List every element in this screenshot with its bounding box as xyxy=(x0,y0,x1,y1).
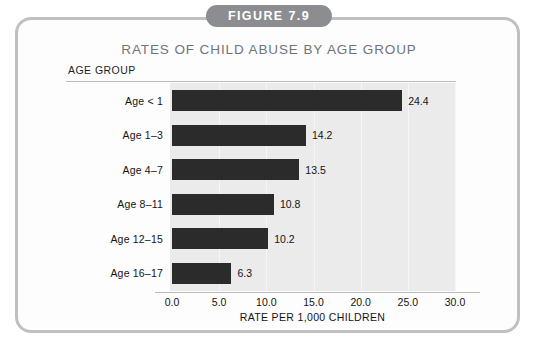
x-axis-title: RATE PER 1,000 CHILDREN xyxy=(170,311,455,323)
bar-row: Age 1–314.2 xyxy=(170,125,455,146)
figure-root: FIGURE 7.9 RATES OF CHILD ABUSE BY AGE G… xyxy=(0,0,538,347)
category-axis-rule xyxy=(66,81,456,82)
plot-area: Age < 124.4Age 1–314.2Age 4–713.5Age 8–1… xyxy=(170,83,455,291)
bar-value-label: 10.8 xyxy=(280,198,300,210)
bar-value-label: 14.2 xyxy=(312,129,332,141)
bar-row: Age 4–713.5 xyxy=(170,159,455,180)
bar-value-label: 6.3 xyxy=(237,267,252,279)
bar-category-label: Age 16–17 xyxy=(110,267,163,279)
x-axis-line xyxy=(155,292,480,293)
gridline xyxy=(266,83,267,291)
x-tick-label: 30.0 xyxy=(445,296,465,308)
bar-category-label: Age 8–11 xyxy=(117,198,163,210)
bar-category-label: Age 1–3 xyxy=(122,129,163,141)
chart-title: RATES OF CHILD ABUSE BY AGE GROUP xyxy=(0,42,538,57)
bar-row: Age 8–1110.8 xyxy=(170,194,455,215)
bar xyxy=(172,90,402,111)
bar-value-label: 24.4 xyxy=(408,95,428,107)
x-tick-label: 25.0 xyxy=(398,296,418,308)
x-tick-label: 15.0 xyxy=(303,296,323,308)
x-tick-label: 5.0 xyxy=(212,296,227,308)
bar xyxy=(172,125,306,146)
figure-number-badge: FIGURE 7.9 xyxy=(206,5,332,27)
bar-row: Age < 124.4 xyxy=(170,90,455,111)
x-tick-label: 20.0 xyxy=(350,296,370,308)
bar-row: Age 16–176.3 xyxy=(170,263,455,284)
bar-category-label: Age 12–15 xyxy=(110,233,163,245)
gridline xyxy=(361,83,362,291)
bar xyxy=(172,194,274,215)
bar-value-label: 13.5 xyxy=(305,164,325,176)
bar-category-label: Age 4–7 xyxy=(122,164,163,176)
x-tick-label: 10.0 xyxy=(256,296,276,308)
category-axis-header: AGE GROUP xyxy=(68,64,136,76)
gridline xyxy=(408,83,409,291)
gridline xyxy=(219,83,220,291)
bar xyxy=(172,263,231,284)
bar-row: Age 12–1510.2 xyxy=(170,228,455,249)
bar-value-label: 10.2 xyxy=(274,233,294,245)
x-tick-label: 0.0 xyxy=(165,296,180,308)
bar-category-label: Age < 1 xyxy=(125,95,163,107)
gridline xyxy=(314,83,315,291)
bar xyxy=(172,159,299,180)
gridline xyxy=(455,83,456,291)
bar xyxy=(172,228,268,249)
